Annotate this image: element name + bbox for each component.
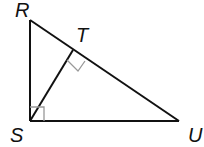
right-angle-marker-t: [67, 60, 85, 71]
segment-st: [30, 50, 73, 121]
label-r: R: [15, 0, 29, 21]
label-u: U: [188, 124, 203, 146]
triangle-diagram: R T S U: [0, 0, 204, 147]
segment-ru: [30, 20, 179, 121]
label-t: T: [76, 24, 90, 46]
label-s: S: [10, 124, 24, 146]
